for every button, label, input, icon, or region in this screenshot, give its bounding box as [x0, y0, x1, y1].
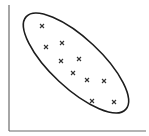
x-marker-icon	[60, 41, 64, 45]
x-marker-icon	[90, 99, 94, 103]
x-marker-icon	[102, 79, 106, 83]
scatter-plot	[0, 0, 149, 136]
x-marker-icon	[77, 57, 81, 61]
x-marker-icon	[71, 71, 75, 75]
x-marker-icon	[59, 59, 63, 63]
x-marker-icon	[112, 100, 116, 104]
enclosing-ellipse	[9, 0, 143, 128]
x-marker-icon	[40, 24, 44, 28]
data-points	[40, 24, 116, 104]
x-marker-icon	[44, 45, 48, 49]
x-marker-icon	[85, 78, 89, 82]
